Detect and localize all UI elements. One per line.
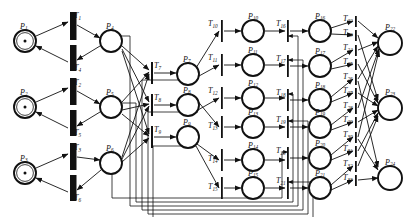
transition-label-sub-T6: 6: [78, 197, 81, 203]
place-P15[interactable]: [242, 177, 264, 199]
transition-label-T1: T1: [74, 11, 81, 21]
petri-net-diagram: T1T4T2T5T3T6T7T8T9T10T11T12T13T14T15T16T…: [0, 0, 413, 217]
transition-label-sub-T12: 12: [212, 90, 218, 96]
transition-T26[interactable]: [355, 74, 357, 85]
transition-T22[interactable]: [355, 16, 357, 27]
transition-label-sub-T28: 28: [347, 105, 353, 111]
place-label-sub-P15: 15: [253, 172, 259, 178]
place-P16[interactable]: [309, 20, 331, 42]
arc-P4-to-T7: [122, 46, 149, 70]
place-P20[interactable]: [309, 147, 331, 169]
arc-T1-to-P4: [77, 25, 100, 38]
transition-label-T20: T20: [276, 146, 286, 156]
place-label-sub-P19: 19: [320, 111, 326, 117]
transition-T16[interactable]: [287, 20, 289, 42]
place-P23[interactable]: [378, 96, 402, 120]
transition-label-sub-T24: 24: [347, 47, 353, 53]
transition-label-sub-T20: 20: [280, 150, 286, 156]
place-P24[interactable]: [378, 166, 402, 190]
place-label-P22: P22: [384, 23, 395, 33]
place-label-P10: P10: [247, 12, 258, 22]
place-P4[interactable]: [100, 30, 122, 52]
transition-T30[interactable]: [355, 132, 357, 143]
transition-label-T13: T13: [208, 121, 218, 131]
transition-T25[interactable]: [355, 59, 357, 70]
place-P9[interactable]: [177, 126, 199, 148]
transition-label-T33: T33: [343, 173, 353, 183]
transition-T18[interactable]: [287, 89, 289, 111]
place-P10[interactable]: [242, 20, 264, 42]
transition-label-T16: T16: [276, 19, 286, 29]
transition-T24[interactable]: [355, 45, 357, 56]
arc-T5-to-P2: [36, 112, 68, 128]
place-label-P18: P18: [314, 81, 325, 91]
arc-P4-to-T9: [122, 51, 149, 134]
transition-T17[interactable]: [287, 55, 289, 77]
place-label-sub-P21: 21: [320, 172, 326, 178]
arc-P6-to-T9: [122, 138, 149, 162]
transition-T23[interactable]: [355, 30, 357, 41]
place-label-P4: P4: [105, 22, 114, 32]
transition-T14[interactable]: [221, 149, 223, 171]
arc-P8-to-T12: [198, 98, 219, 110]
place-P7[interactable]: [177, 63, 199, 85]
place-P8[interactable]: [177, 94, 199, 116]
transition-T31[interactable]: [355, 146, 357, 157]
place-P21[interactable]: [309, 177, 331, 199]
arc-P2-to-T2: [36, 88, 68, 102]
transition-T21[interactable]: [287, 177, 289, 199]
transition-label-T29: T29: [343, 115, 353, 125]
place-P14[interactable]: [242, 149, 264, 171]
transition-T32[interactable]: [355, 161, 357, 172]
transition-label-sub-T14: 14: [212, 158, 218, 164]
place-P18[interactable]: [309, 89, 331, 111]
transition-T20[interactable]: [287, 147, 289, 169]
arc-T26-to-P22: [358, 46, 378, 79]
place-label-P2: P2: [19, 88, 28, 98]
place-P19[interactable]: [309, 116, 331, 138]
transition-T19[interactable]: [287, 116, 289, 138]
place-label-P5: P5: [105, 88, 114, 98]
transition-label-sub-T4: 4: [78, 67, 81, 73]
transition-T12[interactable]: [221, 87, 223, 109]
transition-label-T12: T12: [208, 86, 218, 96]
transition-T15[interactable]: [221, 177, 223, 199]
transition-T10[interactable]: [221, 20, 223, 42]
place-P5[interactable]: [100, 96, 122, 118]
transition-T9[interactable]: [151, 126, 153, 148]
place-P22[interactable]: [378, 31, 402, 55]
place-label-P1: P1: [19, 22, 28, 32]
transition-T27[interactable]: [355, 88, 357, 99]
transition-label-T3: T3: [74, 143, 81, 153]
token-P1: [24, 40, 27, 43]
transition-T13[interactable]: [221, 116, 223, 138]
place-P6[interactable]: [100, 152, 122, 174]
transition-T33[interactable]: [355, 175, 357, 186]
transition-label-T7: T7: [154, 61, 161, 71]
place-label-sub-P2: 2: [25, 91, 28, 97]
transition-label-T32: T32: [343, 159, 353, 169]
transition-label-sub-T7: 7: [158, 65, 161, 71]
place-P13[interactable]: [242, 116, 264, 138]
place-P11[interactable]: [242, 54, 264, 76]
place-label-P20: P20: [314, 139, 325, 149]
transition-label-sub-T2: 2: [78, 82, 81, 88]
transition-T8[interactable]: [151, 94, 153, 116]
place-P17[interactable]: [309, 55, 331, 77]
transition-T7[interactable]: [151, 62, 153, 84]
transition-T11[interactable]: [221, 54, 223, 76]
place-label-P7: P7: [182, 55, 191, 65]
transition-label-sub-T9: 9: [158, 129, 161, 135]
transition-label-sub-T33: 33: [347, 177, 353, 183]
transition-label-T19: T19: [276, 115, 286, 125]
place-P12[interactable]: [242, 87, 264, 109]
transition-label-sub-T1: 1: [78, 15, 81, 21]
transition-T28[interactable]: [355, 103, 357, 114]
transition-label-sub-T19: 19: [280, 119, 286, 125]
transition-label-T11: T11: [208, 53, 218, 63]
place-label-P6: P6: [105, 144, 114, 154]
place-label-sub-P14: 14: [253, 144, 259, 150]
place-label-P17: P17: [314, 47, 325, 57]
transition-T29[interactable]: [355, 117, 357, 128]
arc-T2-to-P5: [77, 91, 100, 104]
